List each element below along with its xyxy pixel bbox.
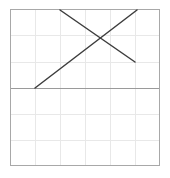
chart-figure <box>0 0 170 178</box>
plot-canvas <box>0 0 170 178</box>
